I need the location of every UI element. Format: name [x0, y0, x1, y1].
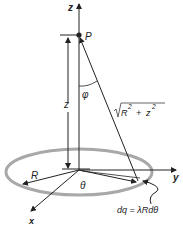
svg-text:2: 2 [127, 103, 132, 110]
z-axis-label: z [67, 2, 73, 13]
x-axis-label: x [28, 216, 35, 226]
charged-ring-diagram: z y x P z φ R 2 + z 2 R θ dq = λRdθ [0, 0, 183, 227]
height-label: z [63, 99, 69, 110]
distance-label: R 2 + z 2 [114, 103, 165, 118]
radius-label: R [31, 170, 38, 181]
svg-text:z: z [145, 108, 151, 118]
phi-label: φ [82, 89, 89, 100]
svg-text:+: + [136, 108, 141, 118]
dq-pointer [143, 181, 158, 204]
point-p-label: P [85, 31, 92, 42]
charge-element-label: dq = λRdθ [117, 205, 158, 215]
phi-arc [79, 81, 97, 86]
theta-label: θ [80, 180, 86, 191]
point-p [76, 32, 81, 37]
svg-text:2: 2 [151, 103, 156, 110]
svg-text:R: R [121, 108, 128, 118]
y-axis-label: y [172, 172, 179, 183]
